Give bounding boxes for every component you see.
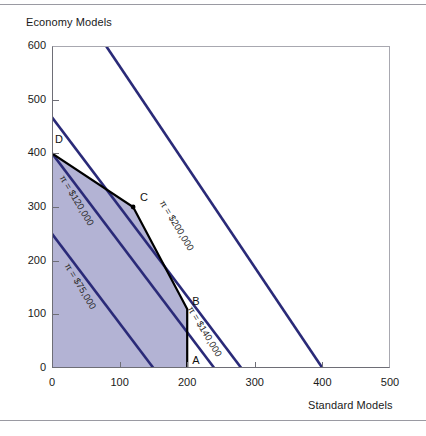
chart-plot-area: [52, 46, 390, 368]
y-tick-label-0: 0: [12, 361, 46, 373]
x-tick-label-200: 200: [167, 376, 207, 388]
y-tick-mark-200: [53, 261, 59, 262]
bottom-divider: [0, 420, 426, 421]
vertex-label-a: A: [192, 354, 199, 366]
y-tick-label-200: 200: [12, 254, 46, 266]
vertex-label-c: C: [140, 191, 148, 203]
x-tick-label-500: 500: [370, 376, 410, 388]
y-tick-label-500: 500: [12, 93, 46, 105]
x-tick-label-100: 100: [100, 376, 140, 388]
y-tick-label-100: 100: [12, 307, 46, 319]
y-tick-label-300: 300: [12, 200, 46, 212]
y-tick-label-600: 600: [12, 39, 46, 51]
x-axis-title: Standard Models: [308, 399, 393, 411]
x-tick-label-0: 0: [32, 376, 72, 388]
x-tick-label-400: 400: [302, 376, 342, 388]
vertex-label-d: D: [55, 133, 63, 145]
y-tick-mark-400: [53, 153, 59, 154]
y-tick-label-400: 400: [12, 146, 46, 158]
y-tick-mark-500: [53, 100, 59, 101]
x-tick-mark-100: [120, 362, 121, 368]
x-tick-label-300: 300: [235, 376, 275, 388]
y-axis-title: Economy Models: [26, 16, 112, 28]
x-tick-mark-400: [322, 362, 323, 368]
x-tick-mark-300: [255, 362, 256, 368]
y-tick-mark-100: [53, 314, 59, 315]
vertex-marker-C: [131, 205, 136, 210]
chart-canvas: [52, 46, 390, 368]
x-tick-mark-200: [187, 362, 188, 368]
top-divider: [0, 4, 426, 5]
y-tick-mark-300: [53, 207, 59, 208]
